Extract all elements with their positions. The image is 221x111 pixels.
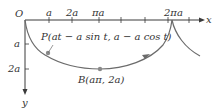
y-axis-arrow-icon xyxy=(23,89,28,95)
y-tick-label-a: a xyxy=(14,38,20,49)
point-p-label: P(at − a sin t, a − a cos t) xyxy=(40,31,172,42)
x-tick-label-a: a xyxy=(46,7,52,18)
cycloid-next-arch xyxy=(172,20,200,56)
x-axis-arrow-icon xyxy=(199,18,205,23)
cycloid-diagram: O a 2a πa 2πa x a 2a y P(at − a sin t, a… xyxy=(0,0,221,111)
point-b xyxy=(98,67,102,71)
origin-label: O xyxy=(15,8,23,19)
point-b-label: B(aπ, 2a) xyxy=(77,74,124,85)
point-p-leader xyxy=(48,45,53,53)
y-axis-ticks xyxy=(25,44,29,69)
x-tick-label-2pia: 2πa xyxy=(163,7,183,18)
y-tick-label-2a: 2a xyxy=(7,63,20,74)
cycloid-curve xyxy=(25,20,172,69)
y-axis-label: y xyxy=(21,97,28,108)
x-tick-label-pia: πa xyxy=(91,7,105,18)
x-tick-label-2a: 2a xyxy=(65,7,78,18)
x-axis-label: x xyxy=(206,14,212,25)
